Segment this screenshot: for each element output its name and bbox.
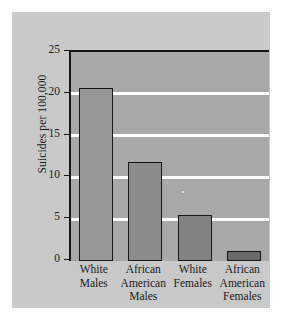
y-tick-mark [64,175,69,176]
y-tick-mark [64,50,69,51]
y-tick-mark [64,92,69,93]
x-category-label-line: Males [113,290,175,304]
y-tick-label: 5 [38,211,60,222]
y-tick-label: 0 [38,253,60,264]
x-category-label-line: American [212,277,274,291]
chart-figure: Suicides per 100,000 0510152025 WhiteMal… [0,0,282,320]
x-category-label: AfricanAmericanFemales [212,263,274,304]
y-axis-tick-labels: 0510152025 [38,38,60,264]
y-tick-label: 25 [38,44,60,55]
x-category-label-line: Females [212,290,274,304]
y-tick-label: 20 [38,86,60,97]
y-tick-label: 15 [38,128,60,139]
plot-area [69,50,269,261]
x-axis-category-labels: WhiteMalesAfricanAmericanMalesWhiteFemal… [69,263,269,313]
y-tick-mark [64,217,69,218]
bar [79,88,113,261]
y-tick-mark [64,259,69,260]
bar [227,251,261,261]
chart-panel: Suicides per 100,000 0510152025 WhiteMal… [12,12,270,308]
bar [178,215,212,261]
speckle-artifact [182,191,184,193]
bar [128,162,162,261]
x-category-label-line: African [212,263,274,277]
y-tick-label: 10 [38,169,60,180]
y-tick-mark [64,134,69,135]
